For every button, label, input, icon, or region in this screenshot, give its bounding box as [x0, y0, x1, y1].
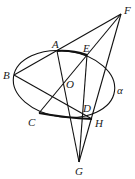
segment-AG: [57, 51, 79, 162]
diagram-canvas: A B C D E F G H O α: [0, 0, 135, 179]
label-H: H: [94, 117, 104, 129]
label-B: B: [3, 69, 10, 81]
geometry-diagram: A B C D E F G H O α: [0, 0, 135, 179]
segment-FB: [14, 14, 121, 75]
label-G: G: [75, 165, 83, 177]
label-C: C: [28, 116, 36, 128]
label-A: A: [51, 38, 59, 50]
segment-BH: [14, 75, 92, 119]
label-O: O: [66, 78, 74, 90]
segment-FC: [39, 14, 121, 113]
label-D: D: [82, 102, 91, 114]
label-E: E: [82, 42, 90, 54]
label-F: F: [123, 4, 131, 16]
label-alpha: α: [117, 84, 123, 96]
